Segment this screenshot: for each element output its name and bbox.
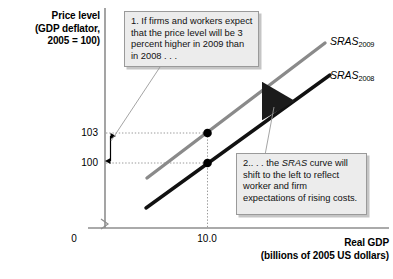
diagram-canvas: Price level (GDP deflator, 2005 = 100) R… — [0, 0, 393, 279]
point-2009-dot — [203, 129, 212, 138]
callout-1-number: 1. — [131, 16, 139, 26]
y-axis-label-line2: (GDP deflator, — [0, 23, 100, 36]
x-tick-10: 10.0 — [187, 233, 227, 244]
y-tick-103: 103 — [62, 127, 98, 138]
callout-2-number: 2. — [243, 158, 251, 168]
callout-2-emphasis: SRAS — [282, 158, 307, 168]
curve-label-sras-2009: SRAS2009 — [330, 35, 374, 47]
leader-line-callout-2 — [265, 107, 274, 155]
leader-line-callout-1 — [111, 67, 160, 141]
callout-box-2: 2.. . . the SRAS curve will shift to the… — [236, 153, 367, 215]
curve-label-sras-2008-base: SRAS — [330, 69, 359, 81]
point-2008-dot — [203, 159, 212, 168]
curve-label-sras-2008: SRAS2008 — [330, 69, 374, 81]
axis-origin-label: 0 — [62, 233, 86, 244]
y-tick-100: 100 — [62, 157, 98, 168]
y-axis-label: Price level (GDP deflator, 2005 = 100) — [0, 10, 100, 48]
callout-box-1: 1. If firms and workers expect that the … — [124, 11, 259, 67]
callout-2-text-before: . . . the — [251, 158, 282, 168]
curve-label-sras-2009-base: SRAS — [330, 35, 359, 47]
y-axis-label-line3: 2005 = 100) — [0, 35, 100, 48]
callout-1-text: If firms and workers expect that the pri… — [131, 16, 252, 61]
y-axis-label-line1: Price level — [0, 10, 100, 23]
curve-label-sras-2009-sub: 2009 — [359, 40, 375, 49]
curve-label-sras-2008-sub: 2008 — [359, 74, 375, 83]
x-axis-label-line2: (billions of 2005 US dollars) — [193, 250, 389, 263]
